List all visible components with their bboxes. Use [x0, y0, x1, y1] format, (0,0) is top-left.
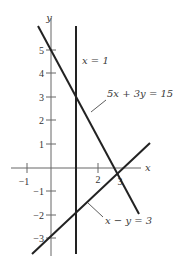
y-axis-label: y [45, 12, 52, 23]
line-x-minus-y-equals-3 [32, 143, 150, 254]
y-tick-label: 2 [39, 115, 44, 126]
x-tick-label: −1 [19, 176, 30, 187]
y-tick-label: 1 [39, 139, 44, 150]
graph-canvas: 5 4 3 2 1 −1 −2 −3 −1 2 3 x y x = 1 5x +… [0, 0, 178, 260]
label-x-equals-1: x = 1 [82, 55, 109, 66]
y-tick-label: 3 [39, 92, 44, 103]
leader-x-y [88, 203, 103, 217]
y-tick-label: −2 [33, 210, 44, 221]
label-x-minus-y-3: x − y = 3 [105, 215, 152, 226]
label-5x-3y-15: 5x + 3y = 15 [107, 88, 173, 99]
x-axis-label: x [145, 162, 151, 173]
y-tick-label: 5 [39, 45, 44, 56]
x-tick-label: 2 [96, 174, 101, 185]
leader-5x-3y [91, 100, 106, 112]
y-tick-labels: 5 4 3 2 1 −1 −2 −3 [33, 45, 44, 244]
y-tick-label: −1 [33, 186, 44, 197]
y-tick-label: 4 [39, 68, 44, 79]
y-tick-label: −3 [33, 233, 44, 244]
